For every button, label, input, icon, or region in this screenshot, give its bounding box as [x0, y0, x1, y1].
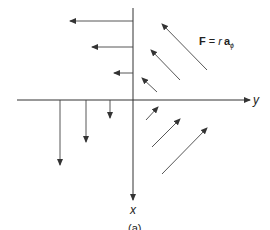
field-arrow-upper-right-3	[162, 24, 207, 70]
x-axis-label: x	[129, 203, 137, 217]
field-arrow-lower-right-2	[152, 119, 180, 147]
field-arrow-lower-right-1	[146, 107, 158, 120]
y-axis-label: y	[252, 93, 260, 107]
field-arrow-lower-right-3	[162, 128, 207, 174]
equation-r: r	[218, 35, 223, 47]
field-arrow-upper-right-1	[142, 78, 157, 92]
field-equation: F = raϕ	[199, 35, 234, 50]
vector-field-diagram: y x F = raϕ	[0, 0, 270, 230]
field-arrow-upper-right-2	[151, 50, 180, 80]
equation-equals: =	[206, 35, 219, 47]
equation-phi-subscript: ϕ	[230, 42, 234, 50]
